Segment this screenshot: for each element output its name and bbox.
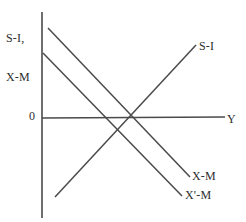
curve-label-xm: X-M [192,170,216,183]
curve-xprime-m-line [43,53,182,196]
economics-diagram-figure: S-I, X-M Y 0 S-I X-M X'-M [0,0,246,222]
y-axis-label: S-I, X-M [6,6,30,110]
curve-si-line [55,45,196,197]
x-axis-label: Y [227,113,236,126]
curve-label-si: S-I [199,40,214,53]
origin-label: 0 [29,110,35,123]
curve-xm-line [48,28,190,177]
curve-label-xprime-m: X'-M [185,189,211,202]
y-axis-label-line-1: S-I, [6,32,30,45]
y-axis-label-line-2: X-M [6,71,30,84]
